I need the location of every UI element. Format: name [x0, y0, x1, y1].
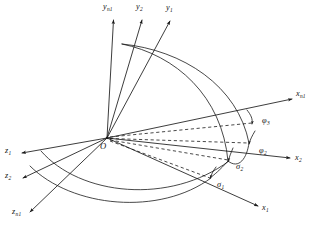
- angle-arrow-group: [211, 110, 256, 178]
- equator-arc-lower: [30, 166, 211, 202]
- dashed-projection-group: [110, 123, 252, 178]
- y-axis-n1-sub: n1: [107, 6, 113, 12]
- origin-point: [106, 137, 108, 139]
- dash-line-to-sigma2: [110, 140, 228, 160]
- meridian-arc-outer: [122, 44, 249, 143]
- angle-phi-2-label: φ2: [259, 147, 267, 155]
- node-link-arc: [210, 161, 228, 178]
- y-axis-1-sub: 1: [170, 7, 173, 13]
- z-axis-2-sub: 2: [9, 175, 12, 181]
- origin-label-text: O: [100, 141, 106, 151]
- x-axis-1-sub: 1: [266, 207, 269, 213]
- x-axis-1-label: x1: [262, 204, 269, 212]
- z-axis-2-label: z2: [5, 172, 11, 180]
- angle-sigma-1-label: σ1: [217, 181, 224, 189]
- z-axis-n1-sub: n1: [16, 211, 22, 217]
- dash-line-to-phi3: [110, 123, 252, 137]
- sigma-1-symbol: σ: [217, 180, 221, 189]
- z-axis-1-label: z1: [5, 147, 11, 155]
- phi-2-sub: 2: [264, 150, 267, 156]
- y-axis-1-line: [107, 21, 170, 138]
- x-axis-n1-label: xn1: [296, 90, 305, 98]
- equator-arc-upper: [41, 151, 229, 190]
- angle-phi-3-label: φ3: [262, 117, 270, 125]
- y-axis-group: [107, 20, 170, 138]
- phi3-angle-arrow: [247, 110, 252, 124]
- phi2-angle-arrow: [249, 131, 255, 144]
- z-axis-n1-line: [30, 138, 107, 212]
- sigma-1-sub: 1: [222, 184, 225, 190]
- sigma-2-symbol: σ: [236, 162, 240, 171]
- y-axis-n1-label: yn1: [103, 3, 112, 11]
- x-axis-1-line: [107, 138, 258, 206]
- z-axis-1-sub: 1: [9, 150, 12, 156]
- y-axis-2-label: y2: [136, 3, 143, 11]
- diagram-canvas: [0, 0, 317, 228]
- x-axis-2-label: x2: [295, 154, 302, 162]
- z-axis-group: [22, 138, 107, 212]
- x-axis-n1-sub: n1: [300, 93, 306, 99]
- y-axis-2-sub: 2: [140, 6, 143, 12]
- sigma-2-sub: 2: [241, 166, 244, 172]
- origin-label: O: [100, 142, 106, 151]
- arc-group: [30, 44, 249, 202]
- sigma2-angle-arrow: [229, 148, 234, 161]
- z-axis-2-line: [23, 138, 107, 178]
- z-axis-n1-base: z: [12, 207, 15, 216]
- x-axis-2-sub: 2: [299, 157, 302, 163]
- meridian-arc-inner: [122, 44, 228, 161]
- coordinate-rotation-diagram: yn1 y2 y1 xn1 x2 x1 z1 z2 zn1 O φ3 φ2 σ2…: [0, 0, 317, 228]
- phi-3-sub: 3: [267, 120, 270, 126]
- z-axis-n1-label: zn1: [12, 208, 21, 216]
- angle-sigma-2-label: σ2: [236, 163, 243, 171]
- z-axis-2-base: z: [5, 171, 8, 180]
- y-axis-1-label: y1: [166, 4, 173, 12]
- z-axis-1-base: z: [5, 146, 8, 155]
